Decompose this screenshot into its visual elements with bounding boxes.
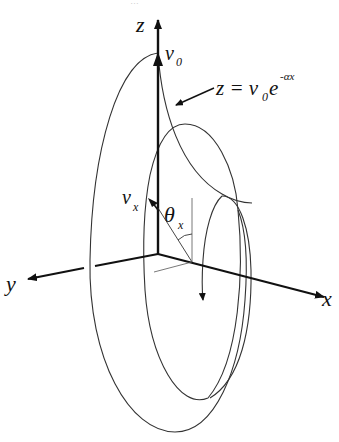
theta-subscript: x	[177, 218, 184, 232]
inner-loop-curve	[202, 196, 222, 300]
equation-v-subscript: 0	[262, 90, 268, 104]
vx-subscript: x	[132, 200, 139, 214]
projection-line	[154, 262, 192, 272]
z-axis-label: z	[135, 12, 145, 37]
equation-base: e	[269, 76, 278, 100]
theta-label: θ	[164, 202, 175, 227]
y-axis-segment-near	[95, 254, 158, 266]
y-axis	[28, 268, 84, 279]
vx-arrowhead-icon	[148, 198, 158, 207]
equation-lhs: z = v	[215, 76, 259, 100]
x-axis-label: x	[321, 286, 332, 311]
vx-label: v	[122, 186, 131, 208]
y-axis-label: y	[4, 271, 16, 296]
v0-subscript: 0	[176, 55, 182, 69]
helical-trajectory-diagram: … z y x v 0 v x θ x z = v 0 e -αx	[0, 0, 339, 442]
theta-angle-arc	[178, 234, 192, 240]
equation-exponent: -αx	[280, 70, 294, 82]
equation-pointer-arrow	[176, 88, 214, 105]
v0-label: v	[165, 42, 174, 64]
cropped-caption: …	[130, 0, 139, 6]
